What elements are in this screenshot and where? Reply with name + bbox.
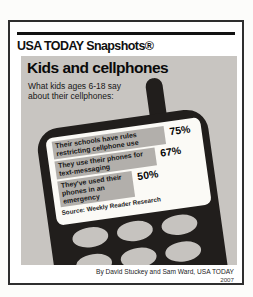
keypad-button-icon [119, 245, 157, 265]
bar-value-emergency: 50% [136, 167, 158, 182]
keypad-button-icon [164, 239, 202, 264]
keypad-button-icon [116, 219, 154, 244]
cellphone-illustration: Their schools have rules restricting cel… [35, 107, 233, 265]
infographic-title: Kids and cellphones [27, 59, 168, 77]
header-rule [17, 32, 235, 35]
byline: By David Stuckey and Sam Ward, USA TODAY [96, 268, 234, 275]
phone-screen: Their schools have rules restricting cel… [45, 117, 212, 226]
keypad-button-icon [71, 225, 109, 250]
bar-value-texting: 67% [159, 144, 181, 159]
infographic-panel: Kids and cellphones What kids ages 6-18 … [21, 56, 237, 265]
infographic-subtitle: What kids ages 6-18 say about their cell… [28, 81, 138, 101]
snapshot-frame: USA TODAY Snapshots® Kids and cellphones… [8, 20, 244, 285]
keypad-button-icon [75, 252, 113, 265]
credit-year: 2007 [220, 276, 234, 283]
bar-value-schools: 75% [169, 122, 191, 137]
brand-title: USA TODAY Snapshots® [17, 38, 153, 53]
keypad-button-icon [160, 212, 198, 237]
